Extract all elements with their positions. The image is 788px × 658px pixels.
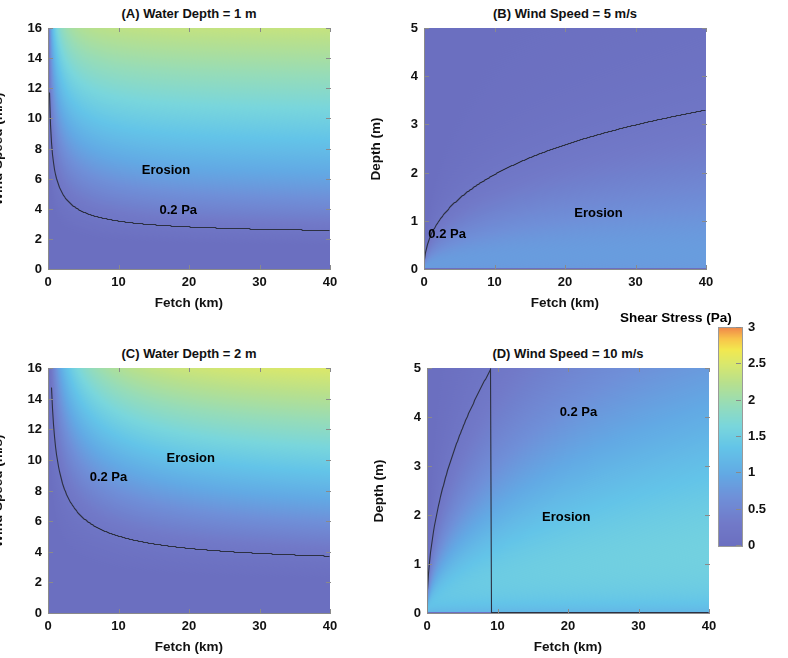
x-tick	[639, 609, 640, 614]
colorbar-canvas	[719, 328, 742, 546]
colorbar-tick-label: 3	[748, 320, 755, 333]
x-tick-top	[189, 28, 190, 32]
y-tick-label: 2	[388, 166, 418, 179]
x-tick-label: 0	[28, 619, 68, 632]
y-tick-right	[702, 124, 707, 125]
colorbar-tick-label: 2.5	[748, 356, 766, 369]
colorbar-tick-label: 2	[748, 393, 755, 406]
panel-a-plot-area	[48, 28, 330, 269]
y-tick-right	[326, 582, 331, 583]
y-tick-right	[326, 368, 331, 369]
y-tick	[427, 564, 432, 565]
heatmap-b	[424, 28, 706, 269]
y-tick-right	[326, 28, 331, 29]
y-tick-right	[326, 179, 331, 180]
y-tick	[427, 466, 432, 467]
colorbar-title: Shear Stress (Pa)	[620, 310, 732, 325]
y-tick-right	[326, 552, 331, 553]
x-tick-label: 30	[616, 275, 656, 288]
y-tick-right	[705, 417, 710, 418]
y-tick-label: 6	[12, 172, 42, 185]
y-tick-right	[702, 28, 707, 29]
panel-b-plot-area	[424, 28, 706, 269]
x-tick	[260, 609, 261, 614]
y-tick	[424, 173, 429, 174]
panel-c-label-0: Erosion	[167, 451, 215, 465]
y-tick	[48, 429, 53, 430]
y-tick-label: 2	[12, 232, 42, 245]
y-tick	[48, 209, 53, 210]
y-tick-right	[702, 173, 707, 174]
x-tick-label: 20	[169, 619, 209, 632]
x-tick-label: 10	[478, 619, 518, 632]
y-tick-right	[705, 564, 710, 565]
panel-d-label-0: Erosion	[542, 510, 590, 524]
y-tick-label: 0	[12, 606, 42, 619]
y-tick-label: 0	[12, 262, 42, 275]
colorbar-tick-label: 0.5	[748, 502, 766, 515]
colorbar-tick	[736, 400, 741, 401]
panel-b-x-axis-title: Fetch (km)	[424, 295, 706, 310]
panel-a-label-1: 0.2 Pa	[159, 203, 197, 217]
panel-b-y-axis	[424, 28, 425, 269]
y-tick-right	[326, 521, 331, 522]
y-tick-right	[326, 491, 331, 492]
y-tick-right	[702, 76, 707, 77]
y-tick-label: 14	[12, 392, 42, 405]
x-tick-top	[260, 28, 261, 32]
x-tick-top	[119, 368, 120, 372]
y-tick	[48, 460, 53, 461]
x-tick-label: 10	[99, 619, 139, 632]
y-tick-label: 1	[388, 214, 418, 227]
y-tick-right	[705, 515, 710, 516]
panel-a-y-axis-title: Wind Speed (m/s)	[0, 92, 5, 205]
y-tick-right	[705, 368, 710, 369]
y-tick	[48, 269, 53, 270]
y-tick-label: 6	[12, 514, 42, 527]
x-tick	[636, 265, 637, 270]
y-tick-label: 1	[391, 557, 421, 570]
panel-a-title: (A) Water Depth = 1 m	[8, 7, 370, 21]
x-tick-label: 0	[404, 275, 444, 288]
panel-d-label-1: 0.2 Pa	[560, 405, 598, 419]
y-tick	[48, 582, 53, 583]
y-tick-right	[326, 149, 331, 150]
y-tick	[48, 239, 53, 240]
y-tick-label: 10	[12, 111, 42, 124]
x-tick-label: 10	[475, 275, 515, 288]
colorbar-gradient	[718, 327, 743, 547]
y-tick-right	[702, 221, 707, 222]
panel-a-label-0: Erosion	[142, 163, 190, 177]
y-tick-right	[326, 269, 331, 270]
y-tick	[48, 521, 53, 522]
heatmap-c	[48, 368, 330, 613]
y-tick	[424, 221, 429, 222]
x-tick	[119, 265, 120, 270]
y-tick-right	[705, 613, 710, 614]
y-tick-label: 16	[12, 361, 42, 374]
x-tick-label: 20	[548, 619, 588, 632]
y-tick-label: 5	[391, 361, 421, 374]
x-tick	[495, 265, 496, 270]
y-tick	[427, 368, 432, 369]
y-tick-label: 4	[388, 69, 418, 82]
x-tick-top	[565, 28, 566, 32]
y-tick	[424, 269, 429, 270]
y-tick	[48, 552, 53, 553]
colorbar-tick-label: 1.5	[748, 429, 766, 442]
x-tick-top	[260, 368, 261, 372]
x-tick-label: 10	[99, 275, 139, 288]
y-tick-label: 4	[12, 202, 42, 215]
x-tick	[189, 609, 190, 614]
y-tick-label: 8	[12, 484, 42, 497]
y-tick-label: 14	[12, 51, 42, 64]
y-tick-right	[326, 460, 331, 461]
y-tick-right	[702, 269, 707, 270]
y-tick-label: 8	[12, 142, 42, 155]
y-tick	[48, 149, 53, 150]
x-tick-label: 40	[310, 275, 350, 288]
y-tick-label: 0	[388, 262, 418, 275]
x-tick-label: 40	[686, 275, 726, 288]
y-tick-label: 16	[12, 21, 42, 34]
y-tick-label: 10	[12, 453, 42, 466]
